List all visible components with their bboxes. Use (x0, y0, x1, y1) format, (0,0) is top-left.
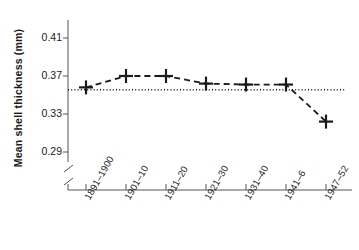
y-axis-tick-label: 0.41 (22, 31, 62, 43)
y-axis-tick-label: 0.37 (22, 69, 62, 81)
y-axis-tick-label: 0.29 (22, 145, 62, 157)
data-point-marker (279, 78, 293, 92)
data-point-marker (119, 69, 133, 83)
data-point-marker (319, 115, 333, 129)
chart-figure: Mean shell thickness (mm) 0.410.370.330.… (0, 0, 359, 250)
data-point-marker (199, 77, 213, 91)
y-axis-tick-label: 0.33 (22, 107, 62, 119)
data-point-marker (159, 69, 173, 83)
data-point-marker (79, 80, 93, 94)
